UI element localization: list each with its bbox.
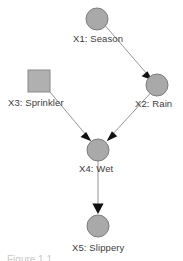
node-x1-season[interactable] (86, 8, 108, 30)
node-label-x1: X1: Season (73, 33, 123, 44)
node-x3-sprinkler[interactable] (28, 70, 50, 92)
arrowhead-x4-x5 (92, 204, 103, 215)
arrowhead-x3-x4 (81, 132, 92, 141)
node-label-x4: X4: Wet (79, 163, 113, 174)
figure-root: X1: Season X3: Sprinkler X2: Rain X4: We… (0, 0, 183, 261)
node-label-x5: X5: Slippery (72, 242, 124, 253)
arrowhead-x2-x4 (107, 131, 118, 141)
node-label-x3: X3: Sprinkler (8, 97, 64, 108)
node-x5-slippery[interactable] (87, 215, 109, 237)
node-x4-wet[interactable] (87, 139, 109, 161)
figure-caption: Figure 1.1 (7, 254, 52, 261)
node-label-x2: X2: Rain (135, 98, 172, 109)
node-x2-rain[interactable] (146, 74, 168, 96)
